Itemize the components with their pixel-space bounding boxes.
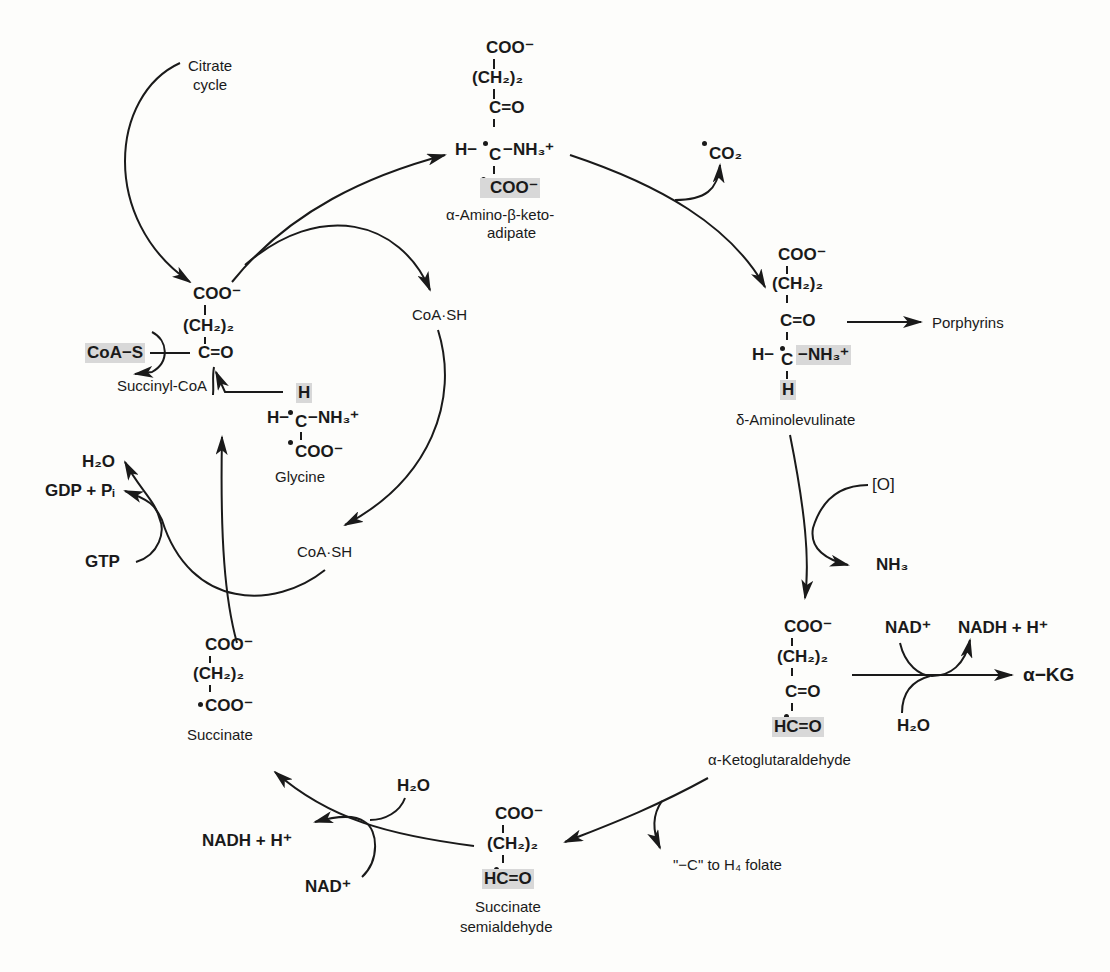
glycine-h-left: H− [267, 408, 289, 428]
succinate-ch2: (CH₂)₂ [193, 664, 244, 684]
citrate-cycle-line1: Citrate [188, 56, 232, 75]
co2-label: CO₂ [709, 144, 742, 164]
gtp-label: GTP [85, 552, 120, 572]
gtp-arc [125, 462, 162, 562]
kga-carbonyl: C=O [785, 682, 820, 702]
ala-label: δ-Aminolevulinate [736, 410, 855, 429]
bond [502, 855, 504, 863]
ala-nh3: −NH₃⁺ [796, 345, 851, 365]
kga-coo: COO⁻ [784, 617, 832, 637]
succinate-label: Succinate [187, 725, 253, 744]
citrate-cycle-line2: cycle [188, 75, 232, 94]
bond [791, 703, 793, 711]
ssa-coo: COO⁻ [495, 804, 543, 824]
h2o-input-arc [902, 676, 930, 713]
label-dot [702, 141, 707, 146]
ssa-aldehyde: HC=O [482, 869, 534, 889]
succinate-coo-bottom: COO⁻ [205, 696, 253, 716]
nad-plus-left-label: NAD⁺ [305, 877, 351, 897]
glycine-c: C [295, 412, 307, 432]
bond [786, 332, 788, 340]
nad-reduction-arrow [900, 640, 970, 676]
bond [204, 305, 206, 315]
ala-h: H− [752, 345, 774, 365]
bond [493, 119, 495, 127]
bond [786, 266, 788, 274]
bond [791, 638, 793, 646]
bond [502, 825, 504, 833]
glycine-coo: COO⁻ [295, 442, 343, 462]
ala-h-bottom: H [780, 380, 796, 400]
oxidation-arrow [812, 485, 868, 565]
succinate-glycine-cycle-diagram: Citrate cycle COO⁻ (CH₂)₂ C=O CoA−S Succ… [0, 0, 1110, 972]
glycine-h-transfer-arrow [213, 367, 214, 395]
akad-h: H− [455, 140, 477, 160]
bond [786, 295, 788, 303]
akad-c: C [489, 145, 501, 165]
glycine-label: Glycine [275, 467, 325, 486]
citrate-to-succinylcoa-arrow [125, 63, 190, 282]
ssa-label-1: Succinate [475, 897, 541, 916]
akad-nh3: −NH₃⁺ [503, 140, 554, 160]
akad-ch2: (CH₂)₂ [472, 68, 523, 88]
c-to-folate-label: "−C" to H₄ folate [673, 855, 782, 874]
c-to-folate-arrow [654, 801, 662, 848]
bond [493, 166, 495, 174]
label-dot [483, 141, 488, 146]
label-dot [288, 410, 293, 415]
aminoketoadipate-to-ala-arrow [570, 155, 765, 287]
succinylcoa-ch2: (CH₂)₂ [183, 316, 234, 336]
bond [786, 371, 788, 379]
glycine-nh3: −NH₃⁺ [308, 408, 359, 428]
akad-coo-bottom: COO⁻ [480, 178, 540, 198]
nadh-left-label: NADH + H⁺ [202, 831, 292, 851]
succinylcoa-carbonyl: C=O [198, 343, 233, 363]
h2o-bottom-arc [370, 798, 405, 820]
label-dot [288, 440, 293, 445]
kga-label: α-Ketoglutaraldehyde [708, 750, 851, 769]
bond [300, 432, 302, 440]
succinate-coo-top: COO⁻ [205, 635, 253, 655]
label-dot [198, 702, 203, 707]
akad-coo: COO⁻ [486, 38, 534, 58]
reaction-arrows [0, 0, 1110, 972]
ketoglutaraldehyde-to-semialdehyde-arrow [565, 778, 708, 842]
nad-plus-right-label: NAD⁺ [885, 618, 931, 638]
kga-ch2: (CH₂)₂ [777, 647, 828, 667]
ala-coo: COO⁻ [778, 245, 826, 265]
bond [791, 668, 793, 676]
ala-ch2: (CH₂)₂ [772, 274, 823, 294]
h2o-right-label: H₂O [897, 716, 930, 736]
coa-release-arrow [245, 225, 430, 290]
ssa-label-2: semialdehyde [460, 917, 553, 936]
ala-carbonyl: C=O [780, 311, 815, 331]
ala-to-ketoglutaraldehyde-arrow [790, 435, 807, 598]
bond [209, 656, 211, 663]
alpha-kg-label: α−KG [1023, 665, 1074, 685]
porphyrins-label: Porphyrins [932, 313, 1004, 332]
gdp-pi-label: GDP + Pᵢ [45, 481, 115, 501]
akad-carbonyl: C=O [489, 98, 524, 118]
coash-transfer-arrow [345, 330, 445, 525]
succinate-to-succinylcoa-arrow [222, 437, 237, 643]
oxygen-label: [O] [872, 475, 895, 495]
akad-label-1: α-Amino-β-keto- [446, 205, 554, 224]
coash-top-label: CoA·SH [412, 305, 467, 324]
co2-release-arrow [675, 165, 720, 200]
h2o-bottom-label: H₂O [397, 776, 430, 796]
bond [209, 685, 211, 692]
citrate-cycle-label: Citrate cycle [188, 56, 232, 94]
nad-bottom-arrow [315, 817, 375, 877]
glycine-attack-arrow [216, 372, 283, 392]
succinylcoa-coo: COO⁻ [193, 284, 241, 304]
coa-s-group: CoA−S [85, 343, 145, 363]
nadh-right-label: NADH + H⁺ [958, 618, 1048, 638]
akad-label-2: adipate [487, 223, 536, 242]
kga-aldehyde: HC=O [772, 717, 824, 737]
succinyl-coa-label: Succinyl-CoA [117, 376, 207, 395]
nh3-label: NH₃ [876, 555, 908, 575]
ssa-ch2: (CH₂)₂ [487, 834, 538, 854]
ala-c: C [781, 350, 793, 370]
h2o-left-label: H₂O [82, 452, 115, 472]
coash-bottom-label: CoA·SH [297, 542, 352, 561]
